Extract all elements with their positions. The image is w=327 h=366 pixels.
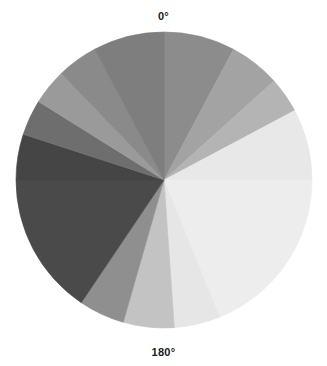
pie-slices-group	[16, 32, 312, 328]
polar-pie-chart: 0° 180°	[0, 0, 327, 366]
angle-label-top: 0°	[0, 10, 327, 22]
angle-label-bottom: 180°	[0, 346, 327, 358]
pie-svg-canvas	[0, 0, 327, 366]
